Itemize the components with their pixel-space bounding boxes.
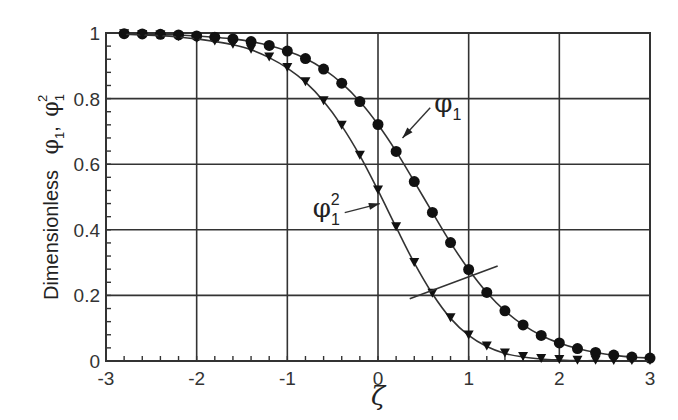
marker-circle [445, 237, 456, 248]
marker-circle [282, 46, 293, 57]
marker-circle [427, 207, 438, 218]
marker-triangle [355, 151, 365, 160]
y-tick-labels: 00.20.40.60.81 [74, 23, 101, 372]
y-tick-label: 0.8 [74, 89, 100, 110]
marker-circle [536, 330, 547, 341]
y-tick-label: 0 [89, 351, 100, 372]
y-tick-label: 0.6 [74, 154, 100, 175]
marker-circle [463, 264, 474, 275]
marker-circle [572, 343, 583, 354]
x-tick-label: 3 [645, 368, 656, 389]
x-tick-label: -3 [98, 368, 115, 389]
y-tick-label: 1 [89, 23, 100, 44]
annotation-phi1-squared: φ12 [313, 191, 380, 228]
marker-triangle [446, 313, 456, 322]
marker-circle [318, 64, 329, 75]
marker-triangle [482, 342, 492, 351]
marker-circle [499, 305, 510, 316]
svg-text:φ12: φ12 [313, 191, 340, 228]
x-axis-title: ζ [371, 381, 387, 411]
series-line [124, 34, 650, 358]
x-tick-label: -1 [279, 368, 296, 389]
annotation-phi1: φ1 [402, 88, 461, 138]
x-tick-label: 2 [554, 368, 565, 389]
marker-circle [300, 53, 311, 64]
svg-text:Dimensionless φ1,: Dimensionless φ1, φ12 [35, 94, 67, 300]
marker-circle [554, 337, 565, 348]
svg-text:φ1: φ1 [434, 88, 461, 123]
y-axis-title: Dimensionless φ1, φ12 [35, 94, 67, 300]
series-line [124, 34, 650, 361]
y-tick-label: 0.2 [74, 285, 100, 306]
series-phi1-squared [119, 29, 655, 365]
y-tick-label: 0.4 [74, 220, 101, 241]
series-layer [119, 28, 656, 365]
series-phi1 [119, 28, 656, 363]
marker-circle [518, 319, 529, 330]
y-axis-title-word: Dimensionless [40, 170, 62, 300]
x-tick-label: 1 [463, 368, 474, 389]
marker-circle [391, 146, 402, 157]
marker-circle [481, 287, 492, 298]
marker-triangle [373, 185, 383, 194]
chart: -3-2-10123 00.20.40.60.81 φ1φ12 ζ Dimens… [0, 0, 678, 420]
marker-triangle [337, 121, 347, 130]
marker-circle [336, 78, 347, 89]
marker-circle [373, 119, 384, 130]
marker-circle [409, 176, 420, 187]
grid-lines [106, 33, 650, 361]
marker-circle [354, 96, 365, 107]
marker-triangle [409, 258, 419, 267]
marker-triangle [319, 96, 329, 105]
marker-circle [264, 40, 275, 51]
x-tick-label: -2 [188, 368, 205, 389]
